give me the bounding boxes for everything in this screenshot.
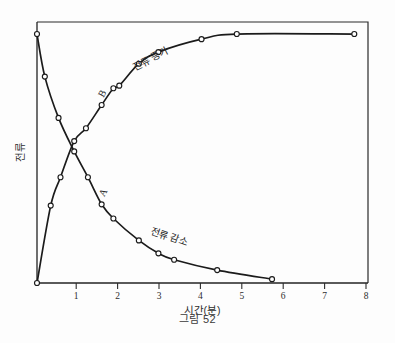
decay-curve-line: [37, 34, 272, 279]
data-point-marker: [99, 202, 104, 207]
x-tick-label: 8: [364, 291, 369, 301]
data-point-marker: [156, 251, 161, 256]
figure-caption: 그림 52: [0, 310, 395, 326]
data-point-marker: [83, 126, 88, 131]
x-tick-label: 3: [157, 291, 162, 301]
rising-curve-markers: [35, 32, 357, 286]
x-axis-ticks: [76, 283, 366, 289]
figure-container: 1 2 3 4 5 6 7 8 시간(분) 전류 전류 증가 전류 감소 B A…: [0, 0, 395, 343]
plot-frame-border: [37, 22, 368, 283]
data-point-marker: [72, 139, 77, 144]
x-tick-label: 1: [74, 291, 79, 301]
decay-curve-markers: [35, 32, 275, 282]
x-tick-label: 2: [115, 291, 120, 301]
x-tick-label: 5: [239, 291, 244, 301]
data-point-marker: [270, 277, 275, 282]
x-tick-label: 6: [281, 291, 286, 301]
x-tick-label: 7: [322, 291, 327, 301]
y-axis-title: 전류: [14, 142, 26, 162]
data-point-marker: [85, 175, 90, 180]
x-axis-tick-labels: 1 2 3 4 5 6 7 8: [74, 291, 369, 301]
data-point-marker: [99, 102, 104, 107]
rising-curve-line: [37, 34, 354, 283]
data-point-marker: [58, 175, 63, 180]
data-point-marker: [215, 268, 220, 273]
data-point-marker: [56, 115, 61, 120]
data-point-marker: [111, 216, 116, 221]
data-point-marker: [352, 32, 357, 37]
data-point-marker: [72, 149, 77, 154]
data-point-marker: [35, 32, 40, 37]
data-point-marker: [117, 83, 122, 88]
data-point-marker: [35, 281, 40, 286]
data-point-marker: [48, 203, 53, 208]
data-point-marker: [234, 32, 239, 37]
rising-curve-label: 전류 증가: [131, 45, 171, 72]
decay-curve-label: 전류 감소: [149, 225, 189, 248]
point-a-label: A: [96, 186, 109, 198]
chart-canvas: 1 2 3 4 5 6 7 8 시간(분) 전류 전류 증가 전류 감소 B A: [0, 0, 395, 343]
data-point-marker: [172, 257, 177, 262]
data-point-marker: [42, 74, 47, 79]
data-point-marker: [111, 86, 116, 91]
data-point-marker: [199, 37, 204, 42]
data-point-marker: [136, 238, 141, 243]
x-tick-label: 4: [198, 291, 203, 301]
